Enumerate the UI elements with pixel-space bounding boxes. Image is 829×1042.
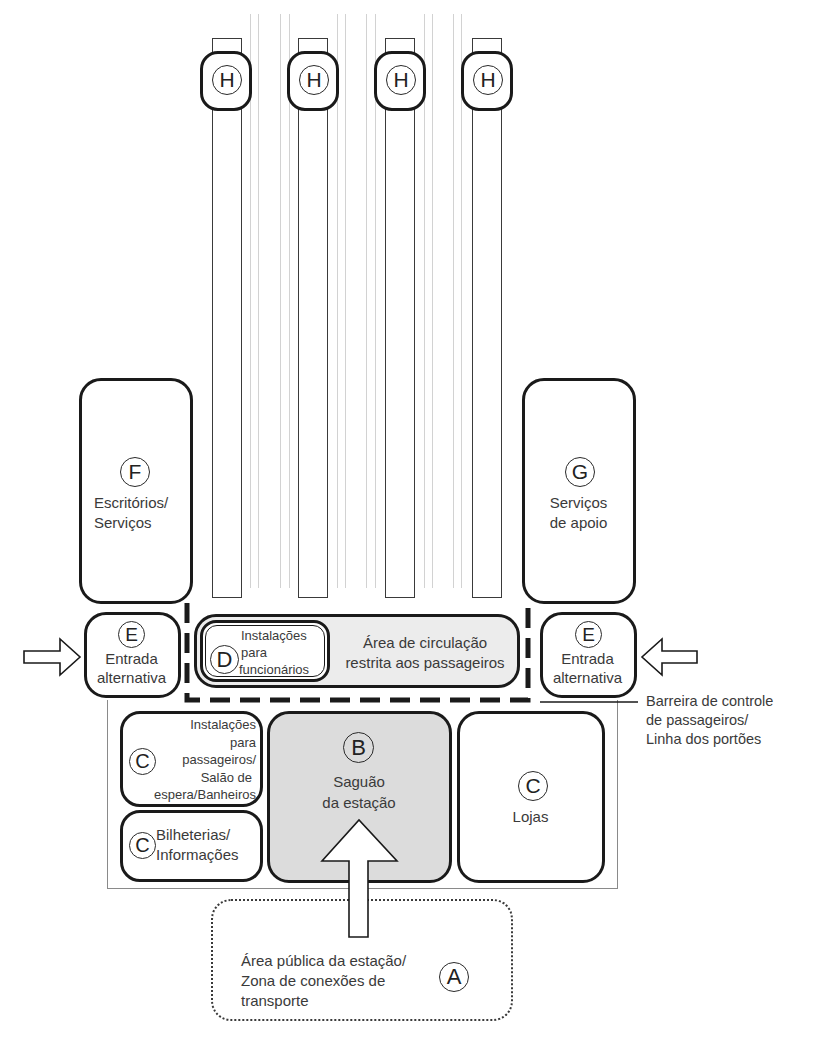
main-entry-arrow <box>0 0 829 1042</box>
barrier-annotation: Barreira de controle de passageiros/ Lin… <box>646 692 773 749</box>
main-entry-arrow-icon <box>322 820 397 937</box>
